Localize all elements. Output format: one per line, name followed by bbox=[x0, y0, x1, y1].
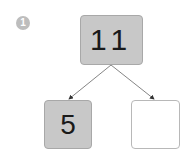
arrow-left bbox=[69, 65, 111, 99]
part-box-right-empty[interactable] bbox=[131, 100, 180, 149]
part-box-left: 5 bbox=[44, 100, 92, 149]
whole-number-box: 11 bbox=[80, 15, 143, 65]
arrow-right bbox=[111, 65, 154, 99]
